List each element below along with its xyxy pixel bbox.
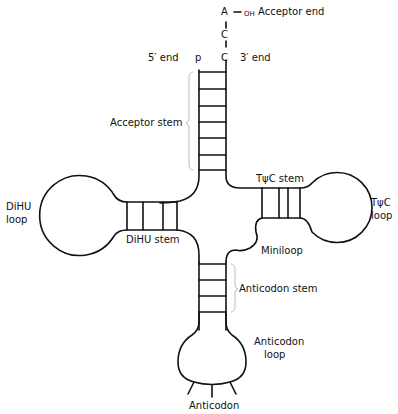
dihu-loop-outline bbox=[40, 176, 199, 263]
three-prime-end-label: 3′ end bbox=[240, 52, 271, 64]
anticodon-stem-label: Anticodon stem bbox=[239, 283, 318, 295]
anticodon-label: Anticodon bbox=[189, 400, 239, 412]
oh-label: OH bbox=[244, 8, 255, 20]
tpsic-stem-base-pairs bbox=[262, 188, 300, 218]
anticodon-stem-bracket bbox=[231, 264, 238, 312]
nucleotide-c1: C bbox=[221, 29, 228, 41]
acceptor-stem-left-strand bbox=[160, 70, 199, 203]
nucleotide-a: A bbox=[221, 6, 228, 18]
dihu-loop-label-line2: loop bbox=[6, 214, 27, 226]
anticodon-loop-label-line1: Anticodon bbox=[254, 336, 304, 348]
acceptor-stem-base-pairs bbox=[199, 72, 226, 170]
anticodon-loop-label-line2: loop bbox=[264, 349, 285, 361]
dihu-stem-base-pairs bbox=[127, 202, 177, 230]
anticodon-base-ticks bbox=[188, 382, 236, 397]
tpsic-loop-label-line2: loop bbox=[371, 210, 392, 222]
tpsic-stem-label: TψC stem bbox=[256, 173, 304, 185]
acceptor-stem-label: Acceptor stem bbox=[110, 117, 183, 129]
nucleotide-c2: C bbox=[221, 52, 228, 64]
anticodon-loop-outline bbox=[178, 312, 246, 385]
acceptor-stem-bracket bbox=[186, 72, 193, 170]
acceptor-end-label: Acceptor end bbox=[258, 6, 324, 18]
miniloop-label: Miniloop bbox=[261, 245, 303, 257]
tpsic-loop-label-line1: TψC bbox=[371, 197, 391, 209]
anticodon-stem-base-pairs bbox=[199, 264, 226, 312]
phosphate-label: p bbox=[195, 52, 201, 64]
five-prime-end-label: 5′ end bbox=[148, 52, 179, 64]
acceptor-stem-right-strand bbox=[226, 60, 262, 188]
dihu-loop-label-line1: DiHU bbox=[6, 201, 31, 213]
dihu-stem-label: DiHU stem bbox=[126, 234, 180, 246]
